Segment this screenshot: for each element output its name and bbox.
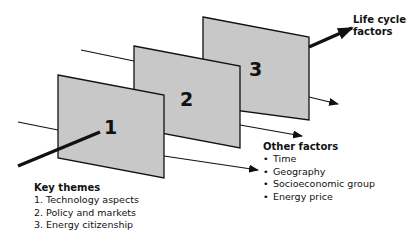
other-factors-title: Other factors — [263, 141, 375, 153]
axis-line-2-in — [81, 50, 134, 61]
panel-1-label: 1 — [104, 118, 117, 137]
key-theme-item: 2. Policy and markets — [34, 207, 139, 219]
key-theme-item: 1. Technology aspects — [34, 194, 139, 206]
other-factor-item: Socioeconomic group — [263, 178, 375, 190]
other-factor-text: Socioeconomic group — [273, 178, 375, 189]
axis-arrow-bottom — [164, 156, 258, 170]
life-cycle-label: Life cycle factors — [353, 14, 406, 39]
key-theme-item: 3. Energy citizenship — [34, 219, 139, 231]
key-themes-block: Key themes 1. Technology aspects 2. Poli… — [34, 182, 139, 232]
life-cycle-arrow — [309, 28, 352, 47]
axis-line-1-in — [18, 122, 58, 130]
other-factor-item: Geography — [263, 166, 375, 178]
other-factor-item: Energy price — [263, 191, 375, 203]
other-factor-text: Geography — [273, 166, 325, 177]
axis-arrow-middle — [240, 125, 302, 136]
other-factor-item: Time — [263, 153, 375, 165]
life-cycle-line1: Life cycle — [353, 14, 406, 26]
other-factors-block: Other factors Time Geography Socioeconom… — [263, 141, 375, 203]
other-factor-text: Energy price — [273, 191, 333, 202]
life-cycle-line2: factors — [353, 26, 406, 38]
axis-arrow-top — [309, 97, 338, 104]
other-factor-text: Time — [273, 153, 296, 164]
panel-3-label: 3 — [249, 60, 262, 79]
panel-2-label: 2 — [180, 90, 193, 109]
key-themes-title: Key themes — [34, 182, 139, 194]
